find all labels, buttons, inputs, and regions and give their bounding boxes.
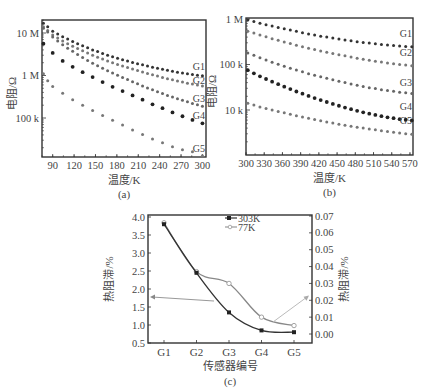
data-point [271, 61, 274, 64]
series-label: G1 [400, 28, 412, 39]
data-point [101, 52, 104, 55]
y-tick-label: 2.5 [132, 266, 145, 277]
x-tick-label: 420 [311, 158, 327, 169]
x-tick-label: G2 [190, 346, 203, 358]
y-right-tick-label: 0.01 [315, 312, 333, 323]
chart-panel-a: 9012015018021024027030010 M1 M100 kG1G2G… [6, 20, 210, 201]
data-point [277, 110, 280, 113]
data-point [277, 63, 280, 66]
data-point [368, 59, 371, 62]
data-point [356, 40, 359, 43]
data-point [398, 91, 401, 94]
data-point [392, 116, 396, 120]
y-axis-label: 热阻滞/% [103, 256, 115, 301]
data-point [61, 39, 64, 42]
data-point [51, 36, 54, 39]
data-point [96, 64, 99, 67]
data-point [81, 49, 84, 52]
data-point [301, 31, 304, 34]
data-point [368, 42, 371, 45]
data-point [186, 82, 189, 85]
data-point [373, 113, 377, 117]
data-point [410, 64, 413, 67]
arrow-left-head [150, 295, 155, 300]
data-point [319, 98, 323, 102]
y-tick-label: 1 M [226, 14, 244, 25]
data-point [325, 36, 328, 39]
data-point [325, 100, 329, 104]
data-point [101, 67, 104, 70]
y-right-tick-label: 0.02 [315, 295, 333, 306]
data-point [356, 57, 359, 60]
data-point [46, 79, 49, 82]
data-point [81, 44, 84, 47]
data-point [181, 71, 184, 74]
data-point [81, 56, 84, 59]
data-point [271, 37, 274, 40]
data-point [307, 94, 311, 98]
data-point [61, 35, 64, 38]
data-point [252, 104, 255, 107]
data-point [42, 22, 45, 25]
data-point [252, 32, 255, 35]
data-point [61, 43, 64, 46]
data-point [295, 114, 298, 117]
data-point [76, 53, 79, 56]
data-point [161, 141, 164, 144]
data-point [362, 41, 365, 44]
data-point [410, 92, 413, 95]
data-point [42, 42, 46, 46]
data-point [181, 114, 185, 118]
plot-frame [42, 20, 206, 157]
data-point [361, 110, 365, 114]
data-point [380, 114, 384, 118]
marker-77K [259, 315, 263, 319]
data-point [116, 57, 119, 60]
data-point [61, 92, 64, 95]
data-point [337, 123, 340, 126]
data-point [313, 33, 316, 36]
x-tick-label: 300 [195, 160, 211, 171]
x-tick-label: 180 [109, 160, 125, 171]
data-point [343, 124, 346, 127]
figure-canvas: 9012015018021024027030010 M1 M100 kG1G2G… [0, 0, 424, 391]
data-point [246, 102, 249, 105]
data-point [282, 85, 286, 89]
data-point [151, 88, 154, 91]
data-point [161, 106, 165, 110]
data-point [166, 77, 169, 80]
series-label: G4 [193, 110, 205, 121]
data-point [307, 32, 310, 35]
y-tick-label: 100 k [15, 113, 39, 124]
data-point [398, 131, 401, 134]
data-point [392, 131, 395, 134]
data-point [186, 72, 189, 75]
series-label: G3 [400, 77, 412, 88]
x-tick-label: G3 [222, 346, 236, 358]
data-point [96, 56, 99, 59]
data-point [126, 66, 129, 69]
data-point [141, 84, 144, 87]
y-axis-label: 电阻/Ω [206, 75, 218, 108]
data-point [42, 27, 45, 30]
data-point [265, 107, 268, 110]
y-right-tick-label: 0.04 [315, 261, 334, 272]
data-point [116, 74, 119, 77]
y-tick-label: 3.0 [132, 248, 145, 259]
data-point [71, 40, 74, 43]
data-point [106, 54, 109, 57]
data-point [368, 86, 371, 89]
data-point [121, 65, 124, 68]
data-point [301, 116, 304, 119]
data-point [313, 118, 316, 121]
panel-caption: (c) [224, 375, 237, 388]
data-point [66, 42, 69, 45]
y-tick-label: 10 k [225, 105, 244, 116]
data-point [171, 70, 174, 73]
series-label: G5 [400, 115, 412, 126]
data-point [343, 38, 346, 41]
data-point [331, 52, 334, 55]
data-point [131, 68, 134, 71]
data-point [362, 85, 365, 88]
data-point [374, 87, 377, 90]
